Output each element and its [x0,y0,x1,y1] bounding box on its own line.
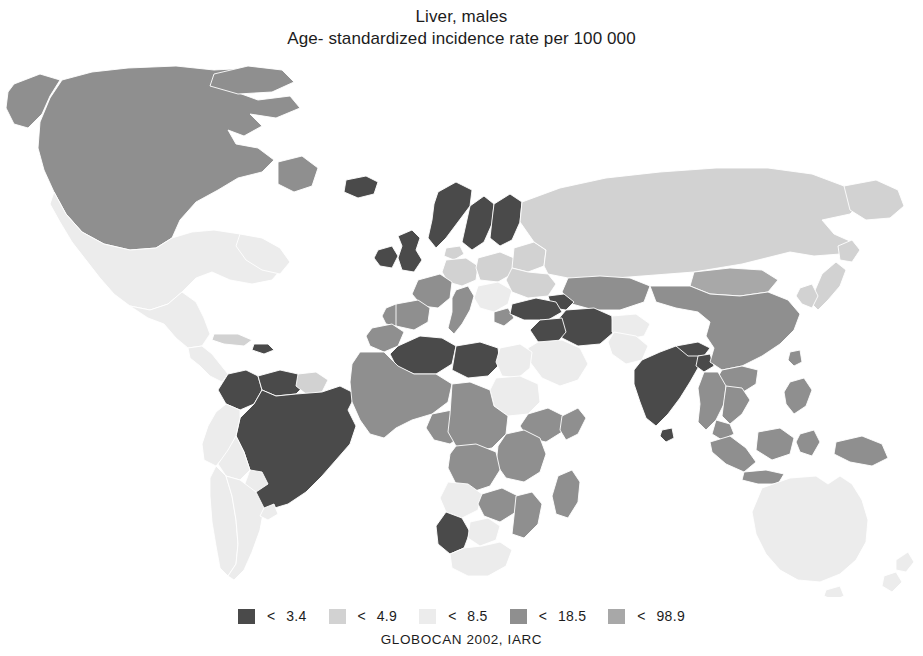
legend-swatch-3 [510,609,527,624]
region-philippines [784,378,812,414]
region-kazakhstan [562,276,650,310]
region-canada-east [278,156,318,192]
region-russia-far-east [844,180,904,220]
legend-item-0: < 3.4 [238,608,307,624]
world-map-figure: Liver, males Age- standardized incidence… [0,0,923,656]
region-finland [490,194,522,246]
legend-operator-2: < [448,608,456,624]
region-new-zealand-south [882,572,902,592]
region-guyanas [296,372,328,394]
region-egypt [496,344,532,378]
legend-operator-0: < [267,608,275,624]
region-papua-new-guinea [834,436,888,466]
region-saudi-arabia [528,340,588,386]
chart-title-line-2: Age- standardized incidence rate per 100… [0,28,923,50]
region-indonesia-sulawesi [796,430,820,456]
legend-value-3: 18.5 [558,608,586,624]
region-india [634,346,706,426]
region-caribbean-hispaniola [252,344,274,354]
legend-operator-4: < [637,608,645,624]
region-indonesia-sumatra [710,436,756,472]
region-indonesia-java [742,470,784,484]
legend-operator-3: < [539,608,547,624]
legend-value-4: 98.9 [657,608,685,624]
region-australia [752,476,868,582]
region-madagascar [552,470,580,518]
region-ireland [374,246,398,268]
region-united-kingdom [398,230,422,272]
region-east-africa [496,430,546,482]
region-indonesia-borneo [756,428,794,460]
region-japan [810,262,846,310]
region-new-zealand [896,552,914,572]
legend-swatch-2 [419,609,436,624]
legend-item-1: < 4.9 [329,608,398,624]
region-zambia-zimbabwe [478,488,518,522]
region-canada [38,66,300,250]
legend-swatch-1 [329,609,346,624]
region-caribbean-cuba [212,334,252,346]
choropleth-map [0,52,923,597]
world-map-svg [0,52,923,597]
region-denmark [444,246,464,260]
region-tasmania [824,586,844,597]
region-portugal [382,304,396,326]
region-taiwan [788,350,802,366]
map-legend: < 3.4 < 4.9 < 8.5 < 18.5 < 98.9 [0,608,923,624]
legend-swatch-0 [238,609,255,624]
region-italy [448,286,474,334]
legend-item-3: < 18.5 [510,608,587,624]
legend-value-2: 8.5 [467,608,487,624]
region-sri-lanka [660,428,674,442]
region-central-america [188,346,228,382]
region-turkey [510,298,562,320]
legend-value-0: 3.4 [286,608,306,624]
legend-operator-1: < [358,608,366,624]
chart-title-block: Liver, males Age- standardized incidence… [0,0,923,50]
region-libya [452,342,500,378]
region-iceland [344,176,378,198]
region-russia [520,168,862,280]
region-vietnam-laos [722,386,750,424]
region-mozambique [512,492,542,538]
legend-item-4: < 98.9 [608,608,685,624]
source-credit: GLOBOCAN 2002, IARC [0,632,923,647]
chart-title-line-1: Liver, males [0,6,923,28]
legend-item-2: < 8.5 [419,608,488,624]
region-botswana [468,518,500,546]
legend-value-1: 4.9 [377,608,397,624]
legend-swatch-4 [608,609,625,624]
region-balkans [474,282,512,312]
region-somalia [560,408,586,440]
